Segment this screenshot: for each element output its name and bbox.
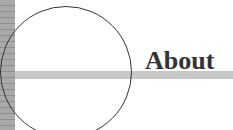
page-title: About: [145, 46, 214, 76]
circle-outline-graphic: [0, 6, 132, 130]
